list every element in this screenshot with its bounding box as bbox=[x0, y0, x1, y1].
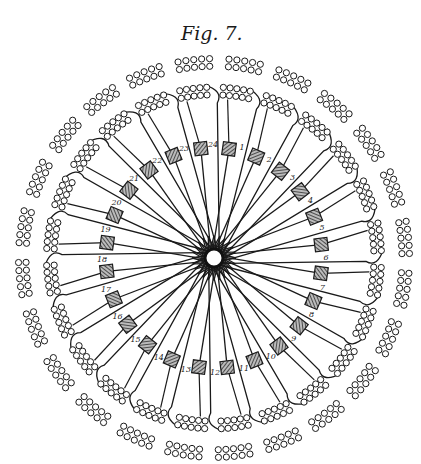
coil-box bbox=[138, 336, 156, 354]
conductor-cluster bbox=[44, 218, 61, 252]
coil-label: 21 bbox=[128, 174, 139, 183]
coil-label: 8 bbox=[309, 310, 314, 319]
conductor-cluster bbox=[175, 414, 209, 431]
conductor-cluster bbox=[347, 363, 379, 399]
coil-box bbox=[120, 181, 138, 199]
coil-17: 17 bbox=[101, 285, 122, 308]
coil-6: 6 bbox=[314, 237, 329, 262]
conductor-cluster bbox=[177, 84, 210, 101]
coil-label: 4 bbox=[307, 196, 313, 205]
coil-box bbox=[314, 237, 328, 251]
coil-2: 2 bbox=[248, 148, 272, 165]
coil-label: 17 bbox=[101, 285, 112, 294]
conductor-cluster bbox=[98, 375, 130, 404]
coil-box bbox=[271, 162, 289, 180]
coil-19: 19 bbox=[100, 225, 115, 250]
conductor-cluster bbox=[165, 441, 203, 460]
coil-10: 10 bbox=[266, 337, 288, 362]
conductor-cluster bbox=[396, 218, 413, 257]
coil-label: 12 bbox=[210, 368, 220, 377]
coil-label: 11 bbox=[239, 364, 249, 373]
coil-13: 13 bbox=[181, 360, 206, 375]
coil-label: 24 bbox=[207, 140, 218, 149]
coil-4: 4 bbox=[291, 183, 313, 205]
conductor-cluster bbox=[264, 428, 302, 453]
conductor-cluster bbox=[259, 401, 293, 424]
conductor-cluster bbox=[215, 443, 253, 460]
coil-label: 7 bbox=[320, 283, 326, 292]
coil-20: 20 bbox=[106, 198, 123, 224]
coil-box bbox=[100, 235, 115, 250]
conductor-cluster bbox=[15, 259, 32, 298]
coil-22: 22 bbox=[140, 156, 162, 180]
coil-label: 3 bbox=[290, 173, 295, 182]
conductor-cluster bbox=[126, 64, 164, 89]
conductor-cluster bbox=[317, 90, 352, 122]
coil-14: 14 bbox=[154, 351, 181, 368]
coil-label: 20 bbox=[110, 198, 121, 207]
conductor-cluster bbox=[99, 111, 131, 140]
stator-winding-diagram: 123456789101112131415161718192021222324 bbox=[0, 0, 421, 464]
coil-1: 1 bbox=[222, 142, 245, 157]
conductor-cluster bbox=[329, 344, 357, 376]
coil-label: 18 bbox=[97, 255, 107, 264]
conductor-cluster bbox=[175, 56, 213, 73]
conductor-cluster bbox=[354, 178, 377, 212]
coil-11: 11 bbox=[239, 352, 263, 373]
conductor-cluster bbox=[394, 270, 412, 309]
coil-7: 7 bbox=[314, 266, 329, 292]
coil-21: 21 bbox=[120, 174, 139, 199]
coil-box bbox=[194, 141, 208, 155]
coil-label: 5 bbox=[319, 223, 324, 232]
conductor-cluster bbox=[380, 169, 404, 208]
conductor-cluster bbox=[26, 159, 52, 197]
coil-label: 6 bbox=[323, 253, 328, 262]
conductor-cluster bbox=[50, 117, 82, 153]
conductor-cluster bbox=[218, 415, 251, 432]
coil-16: 16 bbox=[112, 312, 136, 333]
conductor-cluster bbox=[135, 92, 169, 115]
coil-box bbox=[222, 142, 237, 157]
conductor-cluster bbox=[299, 112, 331, 141]
conductor-cluster bbox=[84, 85, 120, 116]
coil-label: 13 bbox=[181, 365, 191, 374]
conductor-cluster bbox=[220, 84, 254, 101]
conductor-cluster bbox=[376, 319, 402, 357]
conductor-cluster bbox=[76, 394, 111, 426]
coil-label: 14 bbox=[154, 353, 164, 362]
coil-box bbox=[305, 293, 322, 310]
coil-8: 8 bbox=[305, 293, 322, 320]
coil-label: 9 bbox=[291, 334, 296, 343]
coil-label: 22 bbox=[151, 156, 162, 165]
coil-label: 16 bbox=[112, 312, 122, 321]
coil-box bbox=[100, 264, 114, 278]
conductor-cluster bbox=[354, 125, 385, 161]
coil-box bbox=[192, 360, 207, 375]
conductor-cluster bbox=[70, 343, 98, 375]
conductor-cluster bbox=[273, 67, 311, 93]
conductor-cluster bbox=[297, 377, 329, 406]
conductor-cluster bbox=[16, 208, 34, 247]
conductor-cluster bbox=[51, 304, 74, 338]
conductor-cluster bbox=[71, 139, 99, 171]
conductor-cluster bbox=[44, 355, 75, 391]
coil-label: 19 bbox=[100, 225, 110, 234]
coil-18: 18 bbox=[97, 255, 114, 279]
conductor-cluster bbox=[330, 141, 358, 173]
conductor-cluster bbox=[23, 309, 47, 348]
conductor-cluster bbox=[117, 423, 155, 449]
coil-12: 12 bbox=[210, 360, 235, 377]
center-hub bbox=[205, 249, 223, 267]
coil-box bbox=[220, 360, 234, 374]
conductor-cluster bbox=[367, 264, 384, 298]
coil-label: 2 bbox=[266, 155, 272, 164]
conductor-cluster bbox=[309, 400, 345, 431]
coil-box bbox=[163, 351, 180, 368]
coil-label: 10 bbox=[266, 352, 276, 361]
coil-label: 1 bbox=[239, 143, 244, 152]
conductor-cluster bbox=[225, 56, 263, 75]
conductor-cluster bbox=[44, 262, 61, 296]
conductor-cluster bbox=[368, 220, 385, 254]
coil-box bbox=[248, 148, 265, 165]
coil-label: 23 bbox=[178, 144, 189, 153]
